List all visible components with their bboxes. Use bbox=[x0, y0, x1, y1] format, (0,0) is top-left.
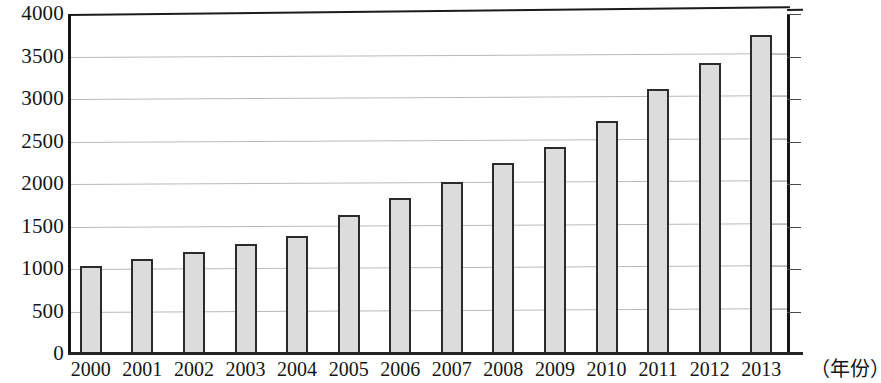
y-axis-tick-label: 4000 bbox=[6, 3, 64, 24]
y-axis-tick-label: 3500 bbox=[6, 46, 64, 67]
right-axis-tick bbox=[787, 57, 801, 58]
axis-top-rule-extension bbox=[787, 9, 803, 11]
bar bbox=[544, 147, 566, 354]
y-axis-tick-label: 3000 bbox=[6, 88, 64, 109]
bar bbox=[131, 259, 153, 354]
x-axis-tick-label: 2013 bbox=[731, 358, 791, 381]
bar bbox=[647, 89, 669, 354]
y-axis-tick-label: 2500 bbox=[6, 131, 64, 152]
right-axis-tick bbox=[787, 99, 801, 100]
gridline bbox=[68, 138, 790, 143]
bar bbox=[183, 252, 205, 354]
axis-left-spine bbox=[68, 14, 71, 354]
y-axis-tick-label: 500 bbox=[6, 301, 64, 322]
gridline bbox=[68, 180, 790, 185]
y-axis-tick-label: 0 bbox=[6, 343, 64, 364]
bar bbox=[80, 266, 102, 354]
gridline bbox=[68, 95, 790, 100]
gridline bbox=[68, 53, 790, 58]
bar bbox=[286, 236, 308, 354]
gridlines bbox=[68, 14, 790, 354]
bar bbox=[596, 121, 618, 354]
bar bbox=[338, 215, 360, 354]
right-axis-tick bbox=[787, 312, 801, 313]
x-axis-unit-label: （年份） bbox=[810, 358, 881, 381]
right-axis-tick bbox=[787, 227, 801, 228]
bar bbox=[699, 63, 721, 354]
bar bbox=[235, 244, 257, 354]
axis-bottom-rule-extension bbox=[787, 352, 803, 355]
y-axis-tick-labels: 05001000150020002500300035004000 bbox=[0, 0, 64, 383]
right-axis-tick bbox=[787, 14, 801, 15]
bar bbox=[492, 163, 514, 354]
bar bbox=[750, 35, 772, 354]
y-axis-tick-label: 2000 bbox=[6, 173, 64, 194]
gridline bbox=[68, 265, 790, 270]
gridline bbox=[68, 308, 790, 313]
axis-bottom-spine bbox=[68, 352, 790, 355]
y-axis-tick-label: 1000 bbox=[6, 258, 64, 279]
y-axis-tick-label: 1500 bbox=[6, 216, 64, 237]
right-axis-tick bbox=[787, 142, 801, 143]
bar bbox=[389, 198, 411, 354]
plot-area bbox=[68, 14, 790, 354]
x-axis-tick-labels: （年份） 20002001200220032004200520062007200… bbox=[68, 358, 857, 383]
right-axis-tick bbox=[787, 269, 801, 270]
right-axis-tick bbox=[787, 184, 801, 185]
gridline bbox=[68, 223, 790, 228]
bar bbox=[441, 182, 463, 354]
